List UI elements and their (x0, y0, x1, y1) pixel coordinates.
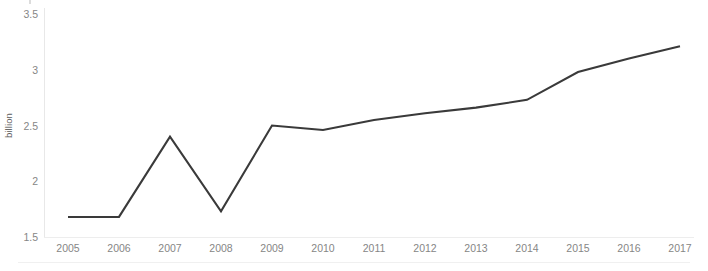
x-tick-label: 2012 (413, 242, 436, 254)
line-chart: billion 1.522.533.5 20052006200720082009… (0, 0, 708, 271)
x-tick-label: 2010 (311, 242, 334, 254)
x-tick-label: 2008 (209, 242, 232, 254)
x-axis-tick-labels: 2005200620072008200920102011201220132014… (0, 0, 708, 271)
x-tick-label: 2006 (107, 242, 130, 254)
x-tick-label: 2015 (566, 242, 589, 254)
x-tick-label: 2013 (464, 242, 487, 254)
x-tick-label: 2005 (56, 242, 79, 254)
x-tick-label: 2017 (668, 242, 691, 254)
x-tick-label: 2016 (617, 242, 640, 254)
x-tick-label: 2011 (363, 242, 386, 254)
bottom-divider (18, 262, 690, 263)
x-tick-label: 2009 (260, 242, 283, 254)
x-tick-label: 2007 (158, 242, 181, 254)
x-tick-label: 2014 (515, 242, 538, 254)
